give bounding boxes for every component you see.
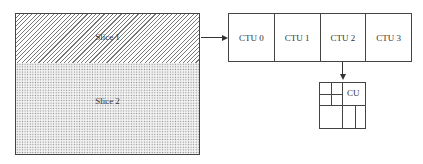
ctu-2: CTU 2 — [321, 14, 367, 61]
arrow-down-icon — [340, 74, 346, 80]
ctu-row: CTU 0 CTU 1 CTU 2 CTU 3 — [228, 13, 412, 62]
slice-2-label: Slice 2 — [16, 96, 199, 106]
cu-bottom-right-split — [355, 105, 356, 128]
slice-1-label: Slice 1 — [16, 32, 199, 42]
ctu-3: CTU 3 — [366, 14, 411, 61]
ctu-0: CTU 0 — [229, 14, 275, 61]
cu-partition-block: CU — [319, 82, 366, 129]
arrow-right-line — [201, 37, 223, 38]
picture-frame: Slice 1 Slice 2 — [15, 13, 200, 155]
ctu-1: CTU 1 — [275, 14, 321, 61]
cu-split-horizontal — [320, 105, 365, 106]
cu-label: CU — [347, 88, 360, 98]
slice-2-region: Slice 2 — [16, 63, 199, 155]
slice-1-region: Slice 1 — [16, 14, 199, 63]
cu-sub-split-horizontal — [320, 94, 342, 95]
